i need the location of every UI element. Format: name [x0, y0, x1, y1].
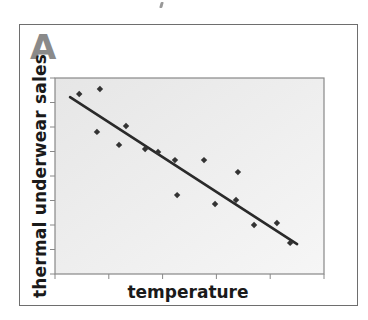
plot-background [55, 78, 324, 274]
y-axis-label: thermal underwear sales [30, 54, 50, 298]
scatter-plot [0, 0, 368, 320]
x-axis-label: temperature [127, 282, 248, 302]
plot-area [55, 78, 324, 274]
